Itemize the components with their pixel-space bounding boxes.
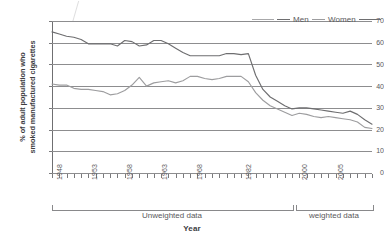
- x-tick-mark: [52, 174, 53, 178]
- x-tick-mark: [168, 174, 169, 178]
- y-tick-label-60: 60: [370, 39, 384, 46]
- x-tick-mark: [263, 174, 264, 178]
- x-tick-mark: [117, 174, 118, 178]
- y-tick-label-20: 20: [370, 126, 384, 133]
- x-tick-mark: [365, 174, 366, 178]
- chart-figure: % of adult population who smoked manufac…: [0, 0, 384, 245]
- x-tick-mark: [147, 174, 148, 178]
- x-tick-mark: [154, 174, 155, 178]
- x-tick-mark: [81, 174, 82, 178]
- x-tick-mark: [227, 174, 228, 178]
- legend-label-women: Women: [328, 15, 356, 24]
- x-tick-mark: [321, 174, 322, 178]
- y-axis-title-line-1: % of adult population who: [18, 17, 28, 177]
- x-tick-mark: [256, 174, 257, 178]
- x-tick-label-1968: 1968: [196, 164, 203, 180]
- x-tick-mark: [277, 174, 278, 178]
- x-tick-mark: [139, 174, 140, 178]
- x-tick-mark: [176, 174, 177, 178]
- x-tick-label-1982: 1982: [245, 164, 252, 180]
- scan-artifact: [68, 1, 80, 21]
- x-tick-mark: [328, 174, 329, 178]
- y-tick-label-50: 50: [370, 61, 384, 68]
- x-tick-mark: [372, 174, 373, 178]
- x-tick-mark: [219, 174, 220, 178]
- legend-swatch-men: [277, 19, 290, 20]
- x-tick-mark: [350, 174, 351, 178]
- x-tick-label-2000: 2000: [301, 164, 308, 180]
- x-tick-mark: [205, 174, 206, 178]
- legend-label-men: Men: [293, 15, 309, 24]
- x-tick-mark: [292, 174, 293, 178]
- x-tick-mark: [270, 174, 271, 178]
- x-tick-mark: [183, 174, 184, 178]
- x-tick-label-1963: 1963: [161, 164, 168, 180]
- x-tick-label-1948: 1948: [56, 164, 63, 180]
- x-tick-mark: [357, 174, 358, 178]
- x-tick-mark: [212, 174, 213, 178]
- y-tick-label-10: 10: [370, 147, 384, 154]
- x-tick-mark: [110, 174, 111, 178]
- y-tick-label-40: 40: [370, 83, 384, 90]
- x-tick-mark: [103, 174, 104, 178]
- x-tick-mark: [234, 174, 235, 178]
- legend-dash-leading: [252, 19, 274, 20]
- x-tick-mark: [88, 174, 89, 178]
- line-series-men: [52, 32, 372, 124]
- y-tick-label-30: 30: [370, 104, 384, 111]
- y-axis-title-line-2: smoked manufactured cigarettes: [28, 17, 38, 177]
- x-tick-mark: [314, 174, 315, 178]
- x-tick-label-1958: 1958: [126, 164, 133, 180]
- chart-legend: Men Women: [252, 13, 381, 25]
- x-tick-label-2005: 2005: [337, 164, 344, 180]
- legend-swatch-women: [312, 19, 325, 20]
- legend-dash-trailing: [359, 19, 381, 20]
- series-lines: [52, 21, 372, 173]
- x-tick-mark: [190, 174, 191, 178]
- bracket-label-weighted: weighted data: [296, 211, 372, 220]
- x-tick-label-1953: 1953: [91, 164, 98, 180]
- x-axis-title: Year: [0, 224, 384, 233]
- x-tick-mark: [285, 174, 286, 178]
- line-series-women: [52, 76, 372, 128]
- x-tick-mark: [74, 174, 75, 178]
- x-tick-mark: [67, 174, 68, 178]
- plot-area: [52, 21, 372, 173]
- x-tick-mark: [241, 174, 242, 178]
- y-axis-title: % of adult population who smoked manufac…: [18, 17, 44, 177]
- bracket-label-unweighted: Unweighted data: [52, 211, 292, 220]
